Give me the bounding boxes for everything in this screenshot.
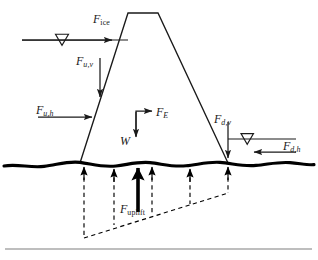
f-uh-subscript: u,h — [43, 109, 53, 118]
f-dh-subscript: d,h — [290, 145, 300, 154]
fe-w-arrow-pair — [136, 111, 152, 137]
f-uh-label: Fu,h — [36, 104, 54, 116]
f-dv-subscript: d,v — [221, 118, 231, 127]
uplift-pressure-distribution — [84, 170, 228, 238]
f-uv-subscript: u,v — [83, 60, 93, 69]
foundation-ground-line — [4, 162, 314, 167]
f-dv-label: Fd,v — [214, 113, 231, 125]
f-dh-label: Fd,h — [283, 140, 301, 152]
f-e-label: FE — [156, 106, 168, 118]
w-label: W — [120, 135, 130, 147]
uplift-arrowheads — [84, 167, 228, 182]
dam-body-outline — [80, 13, 228, 163]
f-ice-label: Fice — [93, 13, 110, 25]
f-ice-subscript: ice — [100, 18, 110, 27]
w-symbol: W — [120, 134, 130, 148]
f-uv-label: Fu,v — [76, 55, 93, 67]
f-uplift-subscript: uplift — [127, 208, 145, 217]
dam-force-diagram-canvas — [0, 0, 318, 260]
force-diagram-figure: Fice Fu,v Fu,h FE W Fd,v Fd,h Fuplift — [0, 0, 318, 260]
f-uplift-label: Fuplift — [120, 203, 145, 215]
f-e-subscript: E — [163, 111, 168, 120]
